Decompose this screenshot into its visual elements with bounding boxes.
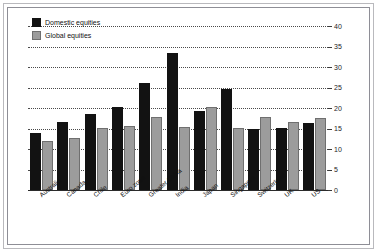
bar-group [194,26,217,190]
bar-global [179,127,190,190]
bar-global [288,122,299,190]
legend-item: Global equities [32,30,152,41]
y-tick-label-0: 0 [334,187,338,194]
bar-group [57,26,80,190]
y-tick-label-10: 10 [334,146,342,153]
tick-mark-40 [328,26,332,27]
y-tick-label-5: 5 [334,166,338,173]
bar-group [303,26,326,190]
chart-legend: Domestic equitiesGlobal equities [32,17,152,43]
tick-mark-35 [328,47,332,48]
bar-domestic [303,123,314,190]
y-tick-label-20: 20 [334,105,342,112]
y-tick-label-35: 35 [334,43,342,50]
bar-group [85,26,108,190]
bar-global [260,117,271,190]
bar-group [276,26,299,190]
legend-label: Global equities [45,32,91,39]
legend-item: Domestic equities [32,17,152,28]
x-axis-labels: AustraliaCanadaChileEuro zoneGreater Chi… [28,190,328,246]
bar-domestic [112,107,123,190]
chart-figure: 0510152025303540 AustraliaCanadaChileEur… [0,0,377,252]
bar-group [139,26,162,190]
tick-mark-15 [328,129,332,130]
tick-mark-25 [328,88,332,89]
y-tick-label-25: 25 [334,84,342,91]
bar-domestic [85,114,96,190]
bar-group [221,26,244,190]
legend-swatch-global [32,31,41,40]
tick-mark-30 [328,67,332,68]
bar-group [30,26,53,190]
bar-group [112,26,135,190]
y-tick-label-40: 40 [334,23,342,30]
tick-mark-20 [328,108,332,109]
tick-mark-10 [328,149,332,150]
bar-domestic [221,89,232,190]
bar-domestic [30,133,41,190]
bar-global [151,117,162,190]
y-tick-label-30: 30 [334,64,342,71]
bar-global [97,128,108,190]
tick-mark-5 [328,170,332,171]
bar-global [315,118,326,190]
bar-group [248,26,271,190]
legend-label: Domestic equities [45,19,100,26]
y-tick-label-15: 15 [334,125,342,132]
tick-mark-0 [328,190,332,191]
bar-global [206,107,217,190]
bar-domestic [194,111,205,190]
legend-swatch-domestic [32,18,41,27]
